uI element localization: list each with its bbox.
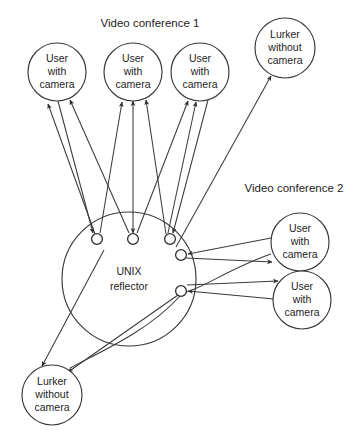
node-label-line: Lurker (37, 375, 67, 387)
node-label-line: camera (182, 78, 217, 90)
edge-e-hub-lurkerbottom-1 (42, 250, 104, 366)
edge-e-u1-p1-in (58, 101, 93, 233)
reflector-port-top-2[interactable] (128, 234, 139, 245)
node-label-line: User (46, 52, 69, 64)
node-label-line: camera (267, 54, 302, 66)
reflector-port-right-1[interactable] (176, 250, 187, 261)
edge-e-hub-lurkertop (176, 76, 271, 247)
node-user-5[interactable]: Userwithcamera (273, 271, 331, 329)
curves-layer (70, 254, 271, 368)
node-label-line: User (291, 280, 314, 292)
node-label-line: without (34, 388, 68, 400)
edge-e-u5-hub-in (188, 291, 274, 299)
edges-layer (42, 76, 278, 372)
node-label-line: with (47, 65, 67, 77)
edge-e-u3-p3-in (173, 100, 208, 233)
node-user-3[interactable]: Userwithcamera (171, 43, 229, 101)
node-user-1[interactable]: Userwithcamera (28, 43, 86, 101)
node-label-line: camera (282, 248, 317, 260)
node-label-line: camera (34, 401, 69, 413)
unix-reflector-label-line2: reflector (110, 280, 148, 292)
node-user-2[interactable]: Userwithcamera (104, 43, 162, 101)
diagram-svg: UNIXreflector UserwithcameraUserwithcame… (0, 0, 356, 448)
edge-e-p3-u3-out (168, 102, 196, 233)
reflector-port-right-2[interactable] (176, 286, 187, 297)
node-label-line: camera (115, 78, 150, 90)
group-label-vc2: Video conference 2 (245, 182, 344, 194)
node-label-line: camera (39, 78, 74, 90)
node-lurker-bottom[interactable]: Lurkerwithoutcamera (22, 365, 82, 425)
edge-e-u4-hub-in (188, 238, 271, 254)
node-label-line: User (289, 222, 312, 234)
edge-e-hub-u5-out (187, 281, 278, 285)
node-lurker-top[interactable]: Lurkerwithoutcamera (255, 18, 315, 78)
node-label-line: with (292, 293, 312, 305)
node-label-line: with (123, 65, 143, 77)
node-label-line: with (290, 235, 310, 247)
node-label-line: User (189, 52, 212, 64)
unix-reflector-label-line1: UNIX (116, 265, 141, 277)
node-label-line: Lurker (270, 28, 300, 40)
node-label-line: camera (284, 306, 319, 318)
reflector-port-top-1[interactable] (92, 234, 103, 245)
node-user-4[interactable]: Userwithcamera (271, 213, 329, 271)
node-label-line: User (122, 52, 145, 64)
reflector-port-top-3[interactable] (165, 234, 176, 245)
unix-reflector-label: UNIXreflector (110, 265, 148, 292)
diagram-canvas: UNIXreflector UserwithcameraUserwithcame… (0, 0, 356, 448)
group-label-vc1: Video conference 1 (101, 17, 200, 29)
node-label-line: with (190, 65, 210, 77)
node-label-line: without (267, 41, 301, 53)
